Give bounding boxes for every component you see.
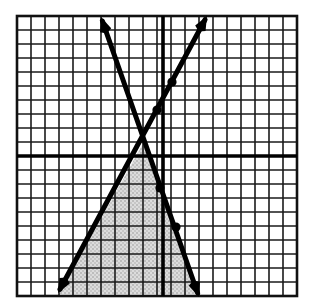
falling-line-point-marker (171, 222, 180, 231)
falling-line-arrowhead-start (100, 17, 111, 34)
falling-line-point-marker (155, 183, 164, 192)
coordinate-graph (0, 0, 315, 308)
rising-line-arrowhead-end (195, 16, 207, 31)
rising-line-point-marker (167, 77, 176, 86)
figure-canvas (0, 0, 315, 308)
rising-line-point-marker (152, 105, 161, 114)
